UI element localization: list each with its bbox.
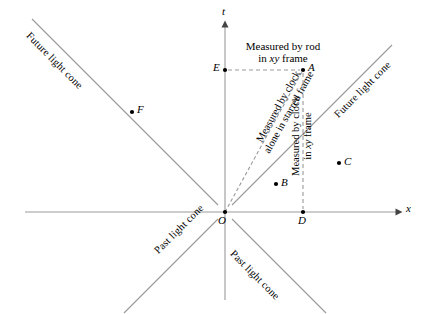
point-label-C: C (344, 155, 351, 167)
point-label-B: B (281, 176, 288, 188)
measured-by-clock-xy-line2-frame: xy (302, 140, 313, 149)
measured-by-rod-line2-frame: xy (270, 52, 280, 64)
point-label-E: E (213, 61, 220, 73)
point-dot-F (130, 110, 134, 114)
measured-by-clock-xy-line1: Measured by clock (290, 96, 301, 176)
point-dot-E (223, 68, 227, 72)
x-axis-label: x (406, 202, 411, 214)
point-label-D: D (298, 214, 306, 226)
future-light-cone-left-line (32, 19, 218, 205)
measured-by-clock-xy-annotation: Measured by clock in xy frame (290, 80, 314, 192)
diagram-canvas (0, 0, 425, 314)
t-axis-label: t (222, 5, 225, 17)
measured-by-rod-line2-pre: in (258, 52, 269, 64)
point-label-F: F (137, 103, 144, 115)
point-dot-B (274, 182, 278, 186)
origin-label: O (218, 214, 226, 226)
measured-by-clock-xy-line2-pre: in (302, 149, 313, 160)
spacetime-diagram: t x O A B C D E F Future light cone Futu… (0, 0, 425, 314)
point-dot-C (337, 161, 341, 165)
measured-by-clock-xy-line2-post: frame (302, 112, 313, 139)
